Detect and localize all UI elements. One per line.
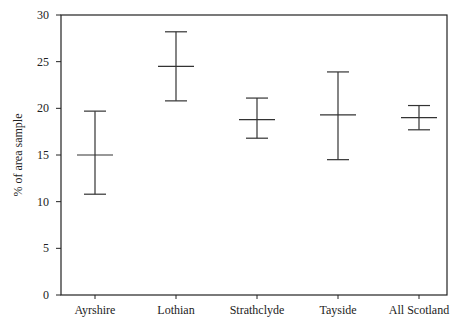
y-axis: 051015202530 (37, 8, 61, 302)
y-tick-label: 30 (37, 8, 49, 22)
y-tick-label: 20 (37, 101, 49, 115)
y-tick-label: 15 (37, 148, 49, 162)
y-axis-title: % of area sample (11, 114, 25, 197)
error-bars (77, 32, 437, 194)
error-bar-strathclyde (239, 98, 275, 138)
error-bar-ayrshire (77, 111, 113, 194)
y-tick-label: 0 (43, 288, 49, 302)
x-tick-label: Lothian (157, 303, 194, 317)
x-tick-label: Tayside (319, 303, 356, 317)
error-bar-all-scotland (401, 106, 437, 130)
y-tick-label: 5 (43, 241, 49, 255)
y-tick-label: 10 (37, 195, 49, 209)
x-tick-label: Strathclyde (230, 303, 285, 317)
x-tick-label: Ayrshire (75, 303, 116, 317)
y-tick-label: 25 (37, 55, 49, 69)
plot-border (61, 15, 447, 295)
error-bar-tayside (320, 72, 356, 160)
x-axis: AyrshireLothianStrathclydeTaysideAll Sco… (75, 295, 450, 317)
chart-canvas: 051015202530 AyrshireLothianStrathclydeT… (0, 0, 456, 326)
error-bar-lothian (158, 32, 194, 101)
plot-frame (61, 15, 447, 295)
x-tick-label: All Scotland (389, 303, 449, 317)
